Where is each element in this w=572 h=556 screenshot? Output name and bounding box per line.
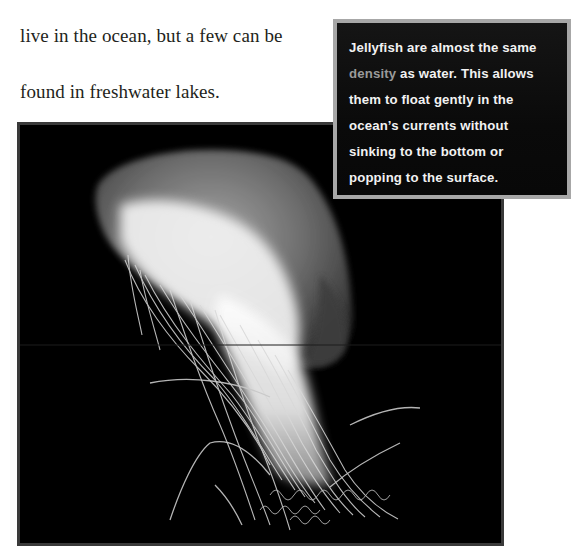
callout-line-2-rest: as water. This allows xyxy=(396,66,533,81)
callout-line-5: sinking to the bottom or xyxy=(349,139,567,165)
callout-line-4: ocean’s currents without xyxy=(349,113,567,139)
body-text-line-1: live in the ocean, but a few can be xyxy=(20,25,283,47)
highlight-term-density: density xyxy=(349,66,396,81)
callout-line-3: them to float gently in the xyxy=(349,87,567,113)
body-text-line-2: found in freshwater lakes. xyxy=(20,81,220,103)
callout-line-2: density as water. This allows xyxy=(349,61,567,87)
fact-callout-box: Jellyfish are almost the same density as… xyxy=(333,19,571,199)
callout-line-1: Jellyfish are almost the same xyxy=(349,35,567,61)
callout-line-6: popping to the surface. xyxy=(349,165,567,191)
